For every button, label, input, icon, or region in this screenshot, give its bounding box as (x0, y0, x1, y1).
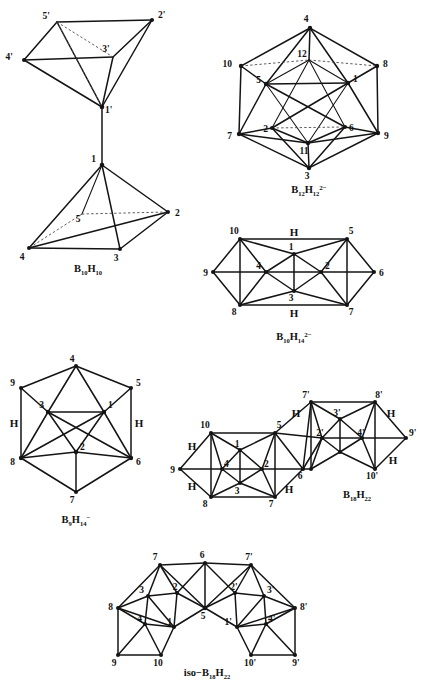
vertex-label: 8' (300, 602, 307, 612)
structure-iso-b18h22: 7 6 7' 3 2 2' 3' 8 8' 4 1 5 1' 4' 9 10 1… (108, 550, 307, 680)
vertex-label: 1 (108, 400, 113, 410)
vertex-label: 5 (349, 226, 354, 236)
vertex-label: 3' (333, 408, 340, 418)
formula-caption-b10h14: B10H142− (276, 331, 312, 344)
bridge-hydrogen-label: H (292, 407, 301, 419)
vertex-label: 8 (108, 602, 113, 612)
vertex-label: 3 (235, 486, 240, 496)
vertex-label: 1' (225, 617, 232, 627)
vertex-label: 8 (383, 59, 388, 69)
vertex-label: 7 (269, 499, 274, 509)
vertex-label: 7 (349, 307, 354, 317)
vertex-label: 10 (153, 658, 163, 668)
iso-b18h22-left-subcluster-edges (118, 563, 205, 655)
structure-b10h10: 5' 2' 4' 3' 1' 1 5 2 4 3 B10H10 (6, 10, 180, 276)
vertex-label: 9 (384, 131, 389, 141)
vertex-label: 3 (289, 293, 294, 303)
vertex-label: 8 (10, 457, 15, 467)
structure-b12h12: 4 12 10 8 5 1 7 9 2 6 11 3 B12H122− (223, 14, 390, 197)
bridge-hydrogen-label: H (285, 483, 294, 495)
bridge-hydrogen-label: H (290, 226, 299, 238)
vertex-label: 9' (409, 428, 416, 438)
vertex-label: 4 (137, 614, 142, 624)
vertex-label: 1 (167, 617, 172, 627)
vertex-label: 3 (139, 585, 144, 595)
borane-structures-figure: 5' 2' 4' 3' 1' 1 5 2 4 3 B10H10 (0, 0, 423, 682)
vertex-label: 7 (70, 495, 75, 505)
bridge-hydrogen-label: H (10, 417, 19, 429)
vertex-label: 2 (173, 582, 178, 592)
vertex-label: 6 (200, 550, 205, 560)
vertex-label: 4 (20, 252, 25, 262)
vertex-label: 10 (229, 226, 239, 236)
vertex-label: 7' (245, 552, 252, 562)
b10h10-vertices (22, 18, 170, 251)
b18h22-bridge-hydrogen-labels: H H H H H H (188, 407, 398, 495)
vertex-label: 4' (357, 428, 364, 438)
formula-caption-b18h22: B18H22 (343, 489, 371, 502)
vertex-label: 6 (349, 123, 354, 133)
vertex-label: 9 (203, 268, 208, 278)
vertex-label: 9' (292, 658, 299, 668)
b12h12-vertex-labels: 4 12 10 8 5 1 7 9 2 6 11 3 (223, 14, 390, 181)
vertex-label: 9 (170, 465, 175, 475)
vertex-label: 2' (158, 10, 165, 20)
vertex-label: 2' (316, 428, 323, 438)
vertex-label: 4 (256, 261, 261, 271)
structure-b10h14: 10 5 9 4 1 2 6 8 3 7 H H B10H142− (203, 226, 384, 344)
vertex-label: 3 (114, 253, 119, 263)
vertex-label: 3 (305, 171, 310, 181)
vertex-label: 10' (366, 471, 378, 481)
structure-b9h14: 4 9 5 3 1 8 2 6 7 H H B9H14− (10, 354, 144, 527)
vertex-label: 2' (230, 582, 237, 592)
vertex-label: 6 (298, 471, 303, 481)
vertex-label: 5' (43, 11, 50, 21)
formula-caption-b12h12: B12H122− (291, 184, 327, 197)
vertex-label: 4' (6, 52, 13, 62)
vertex-label: 7 (153, 552, 158, 562)
vertex-label: 9 (112, 658, 117, 668)
vertex-label: 2 (264, 459, 269, 469)
bridge-hydrogen-label: H (188, 480, 197, 492)
vertex-label: 12 (297, 49, 307, 59)
vertex-label: 2 (175, 208, 180, 218)
vertex-label: 5 (76, 214, 81, 224)
b12h12-edges (239, 28, 378, 168)
vertex-label: 8 (203, 499, 208, 509)
vertex-label: 7' (302, 390, 309, 400)
b10h10-lower-edges (29, 165, 168, 249)
formula-caption-iso-b18h22: iso−B18H22 (184, 667, 230, 680)
vertex-label: 8' (375, 390, 382, 400)
vertex-label: 5 (136, 378, 141, 388)
iso-b18h22-right-subcluster-edges (205, 563, 295, 655)
vertex-label: 8 (232, 307, 237, 317)
vertex-label: 5 (201, 611, 206, 621)
iso-b18h22-vertices (116, 561, 297, 657)
vertex-label: 10' (244, 658, 256, 668)
vertex-label: 2 (263, 124, 268, 134)
vertex-label: 1' (105, 105, 112, 115)
vertex-label: 5 (277, 420, 282, 430)
structure-b18h22: 10 5 9 4 1 2 6 8 3 7 7' 8' 3' 2' 4' 9' 1… (170, 390, 416, 509)
b10h14-edges (213, 239, 374, 305)
vertex-label: 10 (200, 420, 210, 430)
formula-caption-b9h14: B9H14− (62, 514, 91, 527)
b9h14-edges (21, 366, 131, 492)
vertex-label: 1 (235, 439, 240, 449)
bridge-hydrogen-label: H (188, 440, 197, 452)
vertex-label: 4 (70, 354, 75, 364)
b10h10-upper-edges (24, 20, 152, 107)
bridge-hydrogen-label: H (387, 407, 396, 419)
bridge-hydrogen-label: H (290, 307, 299, 319)
vertex-label: 1 (289, 242, 294, 252)
vertex-label: 4' (268, 614, 275, 624)
vertex-label: 3 (39, 400, 44, 410)
vertex-label: 3' (102, 44, 109, 54)
vertex-label: 11 (300, 146, 309, 156)
vertex-label: 4 (304, 14, 309, 24)
vertex-label: 2 (80, 442, 85, 452)
bridge-hydrogen-label: H (389, 454, 398, 466)
vertex-label: 2 (325, 261, 330, 271)
vertex-label: 6 (136, 457, 141, 467)
bridge-hydrogen-label: H (135, 417, 144, 429)
